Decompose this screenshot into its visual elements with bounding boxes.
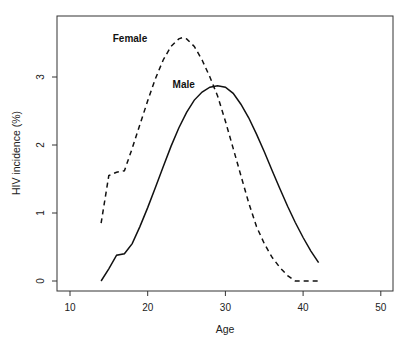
- x-tick-label: 30: [220, 302, 232, 313]
- x-axis-label: Age: [216, 323, 235, 335]
- y-axis: 0123: [35, 74, 57, 284]
- x-tick-label: 10: [64, 302, 76, 313]
- y-tick-label: 3: [35, 74, 46, 80]
- plot-frame: [57, 16, 393, 291]
- y-tick-label: 2: [35, 142, 46, 148]
- series-line-female: [101, 38, 319, 281]
- y-axis-label: HIV incidence (%): [10, 111, 22, 195]
- x-tick-label: 20: [142, 302, 154, 313]
- series-line-male: [101, 86, 319, 281]
- x-tick-label: 50: [375, 302, 387, 313]
- series-label-male: Male: [173, 79, 196, 90]
- y-tick-label: 0: [35, 278, 46, 284]
- series-label-female: Female: [113, 33, 148, 44]
- series-lines: FemaleMale: [101, 33, 319, 281]
- x-axis: 1020304050: [64, 291, 386, 313]
- line-chart: 1020304050 0123 FemaleMale Age HIV incid…: [0, 0, 408, 346]
- y-tick-label: 1: [35, 210, 46, 216]
- x-tick-label: 40: [298, 302, 310, 313]
